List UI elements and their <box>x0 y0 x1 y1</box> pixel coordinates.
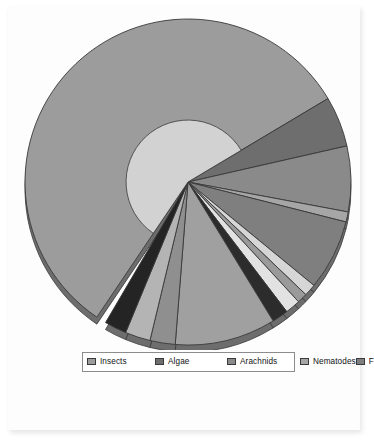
legend-swatch-icon <box>356 358 365 365</box>
pie-chart-plot-area: Insects: 57%Algae: 5%Arachnids: 6.5%Nema… <box>0 0 374 350</box>
legend-item[interactable]: Fungi <box>356 356 374 368</box>
legend-swatch-icon <box>300 358 309 365</box>
legend-item-label: Insects <box>100 356 127 368</box>
legend-item-label: Nematodes <box>313 356 356 368</box>
figure-root: Insects: 57%Algae: 5%Arachnids: 6.5%Nema… <box>0 0 374 444</box>
legend-swatch-icon <box>227 358 236 365</box>
legend-item[interactable]: Insects <box>87 356 155 368</box>
legend-grid: InsectsAlgaeArachnidsNematodesFungiVirus… <box>87 356 290 368</box>
legend-item-label: Arachnids <box>240 356 277 368</box>
legend-item[interactable]: Nematodes <box>300 356 356 368</box>
chart-legend: InsectsAlgaeArachnidsNematodesFungiVirus… <box>82 352 295 372</box>
legend-swatch-icon <box>87 358 96 365</box>
legend-swatch-icon <box>155 358 164 365</box>
pie-chart-svg: Insects: 57%Algae: 5%Arachnids: 6.5%Nema… <box>0 0 374 350</box>
legend-item[interactable]: Algae <box>155 356 227 368</box>
legend-item-label: Fungi <box>369 356 374 368</box>
legend-item[interactable]: Arachnids <box>227 356 300 368</box>
legend-item-label: Algae <box>168 356 189 368</box>
